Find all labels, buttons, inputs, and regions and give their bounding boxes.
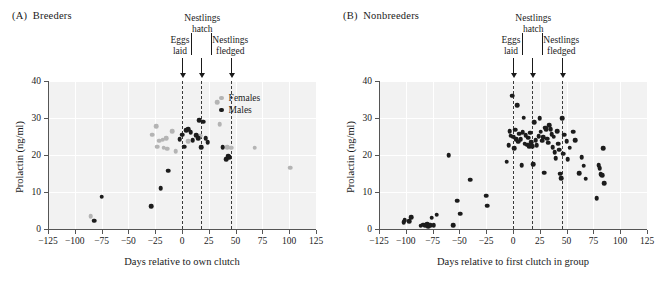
data-point (164, 136, 169, 141)
x-axis-tick-label: 125 (309, 236, 323, 246)
data-point (182, 145, 187, 150)
x-axis-tick (128, 230, 129, 234)
data-point (253, 145, 258, 150)
y-axis-tick-label: 30 (363, 113, 373, 123)
data-point (485, 203, 490, 208)
x-axis-tick-label: −50 (452, 236, 467, 246)
event-arrow-nestlings-hatch (532, 58, 533, 74)
data-point (600, 173, 605, 178)
x-axis-tick (620, 230, 621, 234)
data-point (201, 119, 206, 124)
data-point (565, 157, 570, 162)
data-point (484, 193, 489, 198)
data-point (429, 215, 434, 220)
event-label-line2: hatch (184, 24, 220, 35)
reference-line-eggs-laid (513, 81, 514, 229)
data-point (568, 145, 573, 150)
panel-b-yaxis-title: Prolactin (ng/ml) (345, 121, 356, 193)
x-axis-tick (459, 230, 460, 234)
x-axis-tick-label: −25 (479, 236, 494, 246)
data-point (577, 171, 582, 176)
x-axis-tick (433, 230, 434, 234)
x-axis-tick (406, 230, 407, 234)
event-label-nestlings-fledged: Nestlingsfledged (543, 35, 579, 56)
data-point (548, 127, 553, 132)
y-axis-tick-label: 20 (32, 150, 42, 160)
data-point (562, 132, 567, 137)
event-label-line2: fledged (543, 46, 579, 57)
event-label-separator (191, 33, 192, 55)
data-point (190, 138, 195, 143)
event-label-line1: Eggs (502, 35, 521, 46)
data-point (173, 149, 178, 154)
x-axis-tick (513, 230, 514, 234)
x-axis-tick-label: −100 (65, 236, 85, 246)
data-point (528, 131, 533, 136)
data-point (551, 135, 556, 140)
y-axis-tick (44, 81, 48, 82)
legend-item-females: Females (219, 92, 260, 104)
data-point (188, 130, 193, 135)
data-point (571, 129, 576, 134)
x-axis-tick (567, 230, 568, 234)
data-point (178, 137, 183, 142)
panel-b-xaxis-title: Days relative to first clutch in group (437, 256, 589, 267)
data-point (515, 103, 520, 108)
x-axis-tick-label: 100 (613, 236, 627, 246)
y-axis-tick (375, 118, 379, 119)
event-label-line2: laid (502, 46, 521, 57)
data-point (435, 212, 440, 217)
x-axis-tick-label: −125 (369, 236, 389, 246)
data-point (546, 140, 551, 145)
data-point (539, 129, 544, 134)
x-axis-tick-label: 50 (231, 236, 241, 246)
x-axis-tick-label: −100 (396, 236, 416, 246)
x-axis-tick-label: 0 (511, 236, 516, 246)
event-label-line2: fledged (212, 46, 248, 57)
data-point (407, 219, 412, 224)
data-point (180, 132, 185, 137)
data-point (220, 145, 225, 150)
data-point (451, 223, 456, 228)
data-point (205, 140, 210, 145)
x-axis-tick-label: −75 (425, 236, 440, 246)
data-point (99, 195, 104, 200)
reference-line-eggs-laid (182, 81, 183, 229)
data-point (594, 196, 599, 201)
x-axis-tick (486, 230, 487, 234)
x-axis-tick (593, 230, 594, 234)
panel-b-nonbreeders: (B) Nonbreeders EggslaidNestlingshatchNe… (331, 0, 662, 302)
data-point (561, 152, 566, 157)
data-point (155, 145, 160, 150)
event-label-line1: Nestlings (515, 13, 551, 24)
y-axis-tick-label: 40 (32, 76, 42, 86)
data-point (602, 181, 607, 186)
data-point (506, 143, 511, 148)
x-axis-tick (289, 230, 290, 234)
data-point (150, 132, 155, 137)
legend-swatch-females (219, 96, 224, 101)
y-axis-tick-label: 0 (367, 224, 372, 234)
x-axis-tick-label: −75 (94, 236, 109, 246)
x-axis-tick-label: 75 (589, 236, 599, 246)
panel-a-plot-area (48, 81, 316, 229)
x-axis-tick (236, 230, 237, 234)
x-axis-tick-label: 25 (204, 236, 214, 246)
y-axis-line (48, 81, 49, 229)
event-label-eggs-laid: Eggslaid (171, 35, 190, 56)
data-point (468, 177, 473, 182)
x-axis-tick (379, 230, 380, 234)
x-axis-tick (262, 230, 263, 234)
event-label-nestlings-fledged: Nestlingsfledged (212, 35, 248, 56)
data-point (196, 136, 201, 141)
x-axis-tick-label: 75 (258, 236, 268, 246)
event-arrow-eggs-laid (182, 58, 183, 74)
x-axis-tick (209, 230, 210, 234)
data-point (165, 146, 170, 151)
x-axis-tick (647, 230, 648, 234)
x-axis-tick (48, 230, 49, 234)
y-axis-tick-label: 0 (36, 224, 41, 234)
data-point (170, 129, 175, 134)
data-point (555, 129, 560, 134)
data-point (564, 139, 569, 144)
